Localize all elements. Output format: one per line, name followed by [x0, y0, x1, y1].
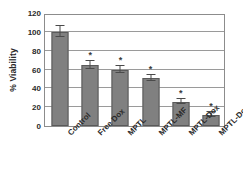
bars-layer: *****: [45, 15, 224, 126]
significance-marker: *: [149, 66, 153, 72]
error-bar-cap: [116, 65, 125, 66]
y-tick-label: 40: [16, 85, 41, 93]
plot-area: *****: [44, 14, 225, 127]
x-tick-label: Free Dox: [96, 131, 102, 137]
y-tick-label: 60: [16, 67, 41, 75]
y-axis-tick-labels: 020406080100120: [16, 14, 41, 127]
error-bar-cap: [56, 25, 65, 26]
x-tick-label: Control: [66, 131, 72, 137]
x-tick-label: MPTL-Dox: [187, 131, 193, 137]
y-tick-label: 100: [16, 29, 41, 37]
x-tick-label: MPTL-MF: [157, 131, 163, 137]
bar-group: *: [75, 15, 105, 126]
bar: [52, 32, 69, 126]
error-bar-cap: [116, 72, 125, 73]
significance-marker: *: [119, 57, 123, 63]
bar-group: *: [136, 15, 166, 126]
error-bar-cap: [176, 98, 185, 99]
y-tick-label: 80: [16, 48, 41, 56]
bar-group: [45, 15, 75, 126]
error-bar-cap: [146, 74, 155, 75]
error-bar-cap: [86, 60, 95, 61]
x-axis-tick-labels: ControlFree DoxMPTLMPTL-MFMPTL-DoxMPTL-D…: [44, 127, 225, 196]
x-tick-label: MPTL: [126, 131, 132, 137]
error-bar-cap: [146, 80, 155, 81]
significance-marker: *: [179, 90, 183, 96]
error-bar-cap: [56, 36, 65, 37]
error-bar-cap: [86, 68, 95, 69]
significance-marker: *: [88, 52, 92, 58]
y-tick-label: 120: [16, 10, 41, 18]
x-tick-label: MPTL-Dox-MF: [217, 131, 223, 137]
y-tick-label: 20: [16, 104, 41, 112]
error-bar-cap: [176, 103, 185, 104]
bar-chart: % Viability 020406080100120 ***** Contro…: [0, 0, 243, 196]
y-tick-label: 0: [16, 123, 41, 131]
